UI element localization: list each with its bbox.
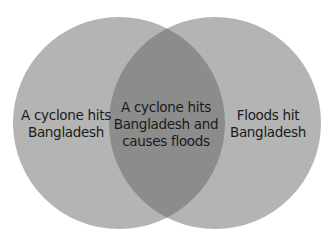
left-set-label-line: A cyclone hits — [14, 107, 118, 124]
left-set-label: A cyclone hits Bangladesh — [14, 107, 118, 141]
right-set-label: Floods hit Bangladesh — [224, 107, 312, 141]
intersection-label-line: A cyclone hits — [110, 99, 222, 116]
right-set-label-line: Floods hit — [224, 107, 312, 124]
intersection-label-line: Bangladesh and — [110, 116, 222, 133]
left-set-label-line: Bangladesh — [14, 124, 118, 141]
intersection-label: A cyclone hits Bangladesh and causes flo… — [110, 99, 222, 150]
right-set-label-line: Bangladesh — [224, 124, 312, 141]
intersection-label-line: causes floods — [110, 133, 222, 150]
